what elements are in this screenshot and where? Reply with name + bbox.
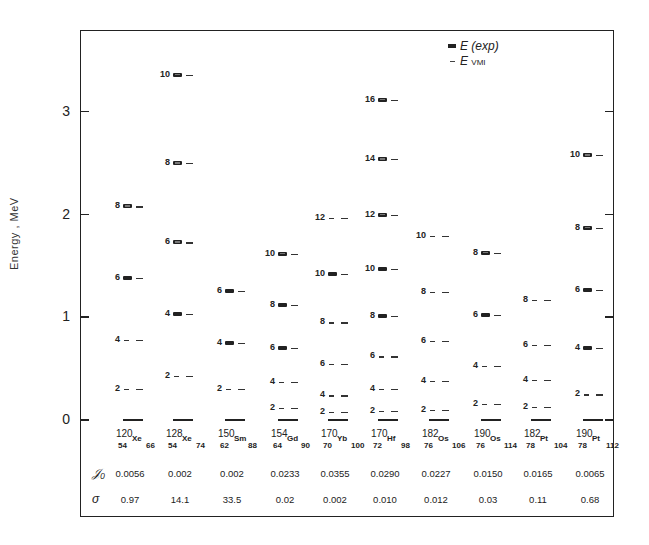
ground-state-line xyxy=(429,419,449,421)
sigma-value: 0.002 xyxy=(310,494,360,505)
spin-label: 8 xyxy=(309,316,325,326)
y-tick-label: 0 xyxy=(50,411,70,427)
spin-label: 4 xyxy=(512,374,528,384)
exp-level-dash xyxy=(430,292,435,293)
spin-label: 10 xyxy=(259,248,275,258)
element-symbol: Gd xyxy=(287,434,298,443)
spin-label: 10 xyxy=(564,149,580,159)
g0-value: 0.0056 xyxy=(105,468,155,479)
sigma-value: 0.11 xyxy=(513,494,563,505)
spin-label: 4 xyxy=(154,308,170,318)
spin-label: 10 xyxy=(309,268,325,278)
spin-label: 4 xyxy=(462,360,478,370)
exp-level-dash xyxy=(532,407,537,408)
nucleus-label: 18278Pt104 xyxy=(524,428,574,454)
exp-level-dash xyxy=(532,380,537,381)
atomic-number: 64 xyxy=(273,441,282,450)
g0-value: 0.0227 xyxy=(411,468,461,479)
spin-label: 6 xyxy=(512,339,528,349)
vmi-level-marker xyxy=(544,345,551,346)
exp-level-dash xyxy=(430,381,435,382)
sigma-value: 14.1 xyxy=(155,494,205,505)
element-symbol: Xe xyxy=(182,434,192,443)
g0-value: 0.0150 xyxy=(463,468,513,479)
exp-level-dash xyxy=(379,411,384,412)
atomic-number: 70 xyxy=(323,441,332,450)
neutron-number: 100 xyxy=(351,441,364,450)
exp-level-marker xyxy=(173,161,182,165)
g0-value: 0.0165 xyxy=(513,468,563,479)
vmi-level-marker xyxy=(391,316,398,317)
exp-level-marker xyxy=(378,267,387,271)
vmi-level-marker xyxy=(186,75,193,76)
y-tick-right xyxy=(605,111,614,113)
spin-label: 12 xyxy=(309,212,325,222)
sigma-value: 0.010 xyxy=(360,494,410,505)
spin-label: 8 xyxy=(462,247,478,257)
ground-state-line xyxy=(225,419,245,421)
legend-vmi-label: E VMI xyxy=(460,54,486,68)
vmi-level-marker xyxy=(136,389,143,390)
exp-level-marker xyxy=(278,303,287,307)
sigma-value: 0.012 xyxy=(411,494,461,505)
element-symbol: Sm xyxy=(234,434,246,443)
exp-level-dash xyxy=(329,322,334,323)
neutron-number: 114 xyxy=(504,441,517,450)
vmi-level-marker xyxy=(341,322,348,323)
mass-number: 120 xyxy=(116,428,133,439)
exp-level-marker xyxy=(378,213,387,217)
exp-level-dash xyxy=(532,300,537,301)
dash-icon xyxy=(450,61,455,62)
energy-level-chart: Energy , MeV 0123 E (exp) E VMI 24681205… xyxy=(0,0,649,545)
spin-label: 16 xyxy=(359,94,375,104)
exp-level-dash xyxy=(482,404,487,405)
exp-level-marker xyxy=(278,252,287,256)
vmi-level-marker xyxy=(291,382,298,383)
exp-level-dash xyxy=(124,340,129,341)
vmi-level-marker xyxy=(238,343,245,344)
vmi-level-marker xyxy=(544,300,551,301)
vmi-level-marker xyxy=(341,364,348,365)
exp-level-dash xyxy=(329,218,334,219)
y-tick xyxy=(80,419,89,421)
vmi-level-marker xyxy=(186,376,193,377)
sigma-value: 0.97 xyxy=(105,494,155,505)
spin-label: 4 xyxy=(309,389,325,399)
spin-label: 2 xyxy=(104,383,120,393)
spin-label: 4 xyxy=(564,342,580,352)
spin-label: 14 xyxy=(359,153,375,163)
mass-number: 182 xyxy=(524,428,541,439)
atomic-number: 76 xyxy=(476,441,485,450)
spin-label: 4 xyxy=(259,376,275,386)
vmi-level-marker xyxy=(341,412,348,413)
nucleus-label: 19076Os114 xyxy=(474,428,524,454)
spin-label: 2 xyxy=(259,402,275,412)
vmi-level-marker xyxy=(291,254,298,255)
vmi-level-marker xyxy=(136,206,143,207)
spin-label: 2 xyxy=(410,404,426,414)
neutron-number: 98 xyxy=(401,441,410,450)
vmi-level-marker xyxy=(341,218,348,219)
vmi-level-marker xyxy=(238,389,245,390)
ground-state-line xyxy=(173,419,193,421)
exp-level-dash xyxy=(329,364,334,365)
ground-state-line xyxy=(378,419,398,421)
ground-state-line xyxy=(278,419,298,421)
sigma-row-label: σ xyxy=(92,492,99,506)
spin-label: 8 xyxy=(154,157,170,167)
ground-state-line xyxy=(531,419,551,421)
vmi-level-marker xyxy=(596,155,603,156)
spin-label: 8 xyxy=(512,294,528,304)
g0-value: 0.0065 xyxy=(565,468,615,479)
vmi-level-marker xyxy=(391,389,398,390)
spin-label: 2 xyxy=(206,383,222,393)
vmi-level-marker xyxy=(136,278,143,279)
mass-number: 170 xyxy=(321,428,338,439)
vmi-level-marker xyxy=(494,366,501,367)
spin-label: 8 xyxy=(359,310,375,320)
neutron-number: 74 xyxy=(196,441,205,450)
vmi-level-marker xyxy=(442,292,449,293)
mass-number: 190 xyxy=(474,428,491,439)
spin-label: 8 xyxy=(410,286,426,296)
nucleus-label: 17070Yb100 xyxy=(321,428,371,454)
